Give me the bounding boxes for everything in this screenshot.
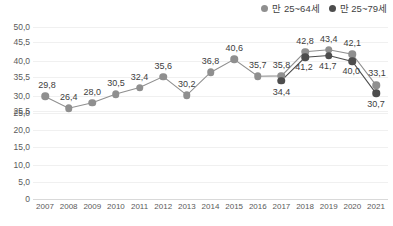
y-axis: 50,045,540,035,530,025,525,020,015,010,0…: [0, 27, 30, 199]
data-point-label: 41,2: [295, 63, 313, 72]
x-axis-tick-label: 2009: [83, 203, 101, 211]
data-point-label: 29,8: [38, 81, 56, 90]
data-point-label: 30,7: [367, 100, 385, 109]
x-axis-tick-label: 2013: [178, 203, 196, 211]
x-axis-tick-label: 2014: [202, 203, 220, 211]
legend-item-series-1[interactable]: 만 25~64세: [261, 4, 319, 14]
data-point-label: 32,4: [131, 72, 149, 81]
legend-label-series-1: 만 25~64세: [272, 4, 319, 14]
line-chart: 만 25~64세 만 25~79세 50,045,540,035,530,025…: [0, 0, 393, 226]
chart-legend: 만 25~64세 만 25~79세: [261, 4, 387, 14]
data-point-label: 26,4: [60, 93, 78, 102]
data-point-label: 40,6: [225, 44, 243, 53]
plot-area: 29,826,428,030,532,435,630,236,840,635,7…: [33, 27, 388, 199]
data-point-label: 43,4: [320, 34, 338, 43]
data-point-marker[interactable]: [89, 99, 97, 107]
data-point-label: 30,5: [107, 79, 125, 88]
y-axis-tick-label: 15,0: [13, 143, 30, 152]
x-axis-tick-label: 2008: [60, 203, 78, 211]
data-point-label: 33,1: [368, 69, 386, 78]
data-point-marker[interactable]: [254, 72, 262, 80]
x-axis-tick-label: 2015: [225, 203, 243, 211]
x-axis-tick-label: 2018: [296, 203, 314, 211]
x-axis-tick-label: 2010: [107, 203, 125, 211]
y-axis-tick-label: 25,0: [13, 109, 30, 118]
x-axis-tick-label: 2020: [343, 203, 361, 211]
data-point-marker[interactable]: [183, 91, 191, 99]
x-axis-tick-label: 2007: [36, 203, 54, 211]
data-point-label: 41,7: [319, 61, 337, 70]
y-axis-tick-label: 30,0: [13, 92, 30, 101]
circle-marker-dark-icon: [329, 5, 336, 12]
data-point-marker[interactable]: [349, 58, 357, 66]
data-point-marker[interactable]: [301, 54, 309, 62]
y-axis-tick-label: 10,0: [13, 160, 30, 169]
data-point-label: 34,4: [273, 87, 291, 96]
legend-item-series-2[interactable]: 만 25~79세: [329, 4, 387, 14]
data-point-label: 35,8: [273, 60, 291, 69]
y-axis-tick-label: 45,5: [13, 38, 30, 47]
data-point-marker[interactable]: [159, 73, 167, 81]
data-point-label: 42,1: [344, 39, 362, 48]
x-axis-tick-label: 2021: [367, 203, 385, 211]
data-point-marker[interactable]: [136, 84, 144, 92]
data-point-marker[interactable]: [325, 52, 333, 60]
data-point-marker[interactable]: [372, 90, 380, 98]
y-axis-tick-label: 0: [25, 195, 30, 204]
data-point-label: 42,8: [296, 36, 314, 45]
data-point-label: 35,7: [249, 61, 267, 70]
data-point-label: 30,2: [178, 80, 196, 89]
x-axis-tick-label: 2016: [249, 203, 267, 211]
y-axis-tick-label: 20,0: [13, 126, 30, 135]
series-lines: [33, 27, 388, 199]
data-point-marker[interactable]: [278, 77, 286, 85]
circle-marker-light-icon: [261, 5, 268, 12]
x-axis-tick-label: 2012: [154, 203, 172, 211]
y-axis-tick-label: 35,5: [13, 73, 30, 82]
x-axis-line: [33, 199, 388, 200]
x-axis-tick-label: 2017: [273, 203, 291, 211]
x-axis-tick-label: 2019: [320, 203, 338, 211]
data-point-marker[interactable]: [112, 90, 120, 98]
data-point-label: 36,8: [202, 57, 220, 66]
data-point-marker[interactable]: [65, 104, 73, 112]
data-point-marker[interactable]: [41, 93, 49, 101]
y-axis-tick-label: 50,0: [13, 23, 30, 32]
data-point-marker[interactable]: [372, 81, 380, 89]
x-axis-tick-label: 2011: [131, 203, 148, 211]
legend-label-series-2: 만 25~79세: [340, 4, 387, 14]
data-point-label: 40,0: [343, 67, 361, 76]
data-point-marker[interactable]: [207, 69, 215, 77]
data-point-label: 35,6: [154, 61, 172, 70]
data-point-label: 28,0: [84, 87, 102, 96]
y-axis-tick-label: 40,0: [13, 57, 30, 66]
y-axis-tick-label: 5,0: [18, 178, 30, 187]
x-axis: 2007200820092010201120122013201420152016…: [33, 203, 388, 219]
data-point-marker[interactable]: [230, 56, 238, 64]
